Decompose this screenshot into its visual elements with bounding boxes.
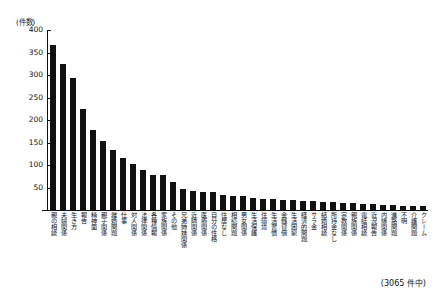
- bar: [130, 164, 135, 210]
- x-axis-label: 所持金なし: [330, 212, 337, 242]
- bar: [340, 203, 345, 210]
- bar: [200, 192, 205, 210]
- y-axis-tick-label: 100: [17, 161, 43, 169]
- x-axis-label: サラ金: [310, 212, 317, 230]
- x-axis-label: 各種情報: [150, 212, 157, 236]
- y-axis-tick-label: 50: [17, 184, 43, 192]
- total-count-note: (3065 件中): [381, 277, 426, 288]
- bar: [320, 202, 325, 210]
- bar: [150, 175, 155, 210]
- bar: [410, 206, 415, 210]
- x-axis-label: 進路問題: [390, 212, 397, 236]
- x-axis-label: 経済的問題: [300, 212, 307, 242]
- bar: [90, 130, 95, 210]
- x-axis-label: 相続問題: [230, 212, 237, 236]
- x-axis-label: 宗教関係: [340, 212, 347, 236]
- bar: [110, 150, 115, 210]
- bar: [390, 205, 395, 210]
- x-axis-label: 電話相談: [360, 212, 367, 236]
- x-axis-label: 住環境: [260, 212, 267, 230]
- bar: [420, 206, 425, 210]
- x-axis-label: 仕事: [120, 212, 127, 224]
- bar: [350, 203, 355, 210]
- x-axis-label: 住居なし: [220, 212, 227, 236]
- y-axis-tick-label: 350: [17, 49, 43, 57]
- x-axis-label: 兄弟姉妹関係: [180, 212, 187, 248]
- x-axis-label: 報告: [80, 212, 87, 224]
- x-axis-label: 近況報告: [370, 212, 377, 236]
- y-axis-tick-label: 200: [17, 116, 43, 124]
- y-axis-tick-label: 250: [17, 94, 43, 102]
- x-axis-label: 対人関係: [130, 212, 137, 236]
- bar: [170, 182, 175, 210]
- x-axis-label: 親の相談: [50, 212, 57, 236]
- x-axis-category-labels: 親の相談夫婦関係生き方報告精神面親子関係離婚問題仕事対人関係法律関係各種情報家族…: [48, 212, 428, 272]
- bar: [400, 206, 405, 211]
- x-axis-label: 生活困窮: [290, 212, 297, 236]
- bar: [210, 192, 215, 210]
- bar-chart-figure: (件数) 50100150200250300350400 親の相談夫婦関係生き方…: [0, 0, 434, 296]
- y-axis-tick-label: 400: [17, 26, 43, 34]
- x-axis-label: 生き方: [70, 212, 77, 230]
- bar: [160, 175, 165, 210]
- bar: [270, 199, 275, 210]
- y-axis-tick-label: 150: [17, 139, 43, 147]
- bar: [120, 158, 125, 210]
- bar: [220, 195, 225, 210]
- x-axis-label: 夫婦関係: [60, 212, 67, 236]
- x-axis-label: 離婚問題: [110, 212, 117, 236]
- bar: [260, 199, 265, 210]
- x-axis-label: 法律関係: [140, 212, 147, 236]
- x-axis-label: 親子関係: [100, 212, 107, 236]
- bar: [370, 204, 375, 210]
- bar: [250, 198, 255, 210]
- x-axis-label: 精神面: [90, 212, 97, 230]
- bar: [100, 141, 105, 210]
- x-axis-label: 自分の性格: [210, 212, 217, 242]
- bar: [240, 196, 245, 210]
- plot-area: [48, 30, 428, 210]
- bar: [280, 200, 285, 210]
- bar: [180, 189, 185, 210]
- bar: [50, 45, 55, 210]
- bar: [140, 170, 145, 210]
- x-axis-label: 親族関係: [350, 212, 357, 236]
- x-axis-label: 男女関係: [240, 212, 247, 236]
- bar: [80, 109, 85, 210]
- x-axis-label: 金銭貸借: [280, 212, 287, 236]
- y-axis-tick-label: 300: [17, 71, 43, 79]
- bar: [70, 78, 75, 210]
- x-axis-label: 介護問題: [410, 212, 417, 236]
- bar: [330, 202, 335, 210]
- bar: [190, 191, 195, 210]
- x-axis-label: 家族関係: [160, 212, 167, 236]
- x-axis-baseline: [42, 210, 428, 211]
- bar: [360, 204, 365, 210]
- bar: [310, 201, 315, 210]
- x-axis-label: クレーム: [420, 212, 427, 236]
- bar: [380, 205, 385, 210]
- bar: [290, 200, 295, 210]
- bar: [230, 196, 235, 210]
- x-axis-label: 内縁関係: [380, 212, 387, 236]
- x-axis-label: 医療関係: [200, 212, 207, 236]
- x-axis-label: 生活習慣: [270, 212, 277, 236]
- x-axis-label: 不明: [400, 212, 407, 224]
- x-axis-label: 生活保護: [250, 212, 257, 236]
- bar: [300, 201, 305, 210]
- bar: [60, 64, 65, 210]
- x-axis-label: その他: [170, 212, 177, 230]
- x-axis-label: 近隣関係: [190, 212, 197, 236]
- x-axis-label: 結婚相談: [320, 212, 327, 236]
